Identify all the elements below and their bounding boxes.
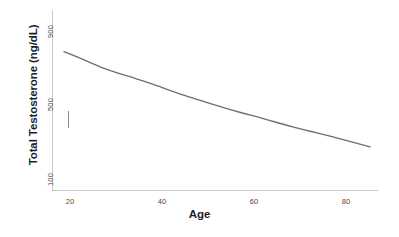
x-tick-label-60: 60 xyxy=(239,197,269,206)
y-tick-label-100: 100 xyxy=(46,173,55,186)
x-axis-title: Age xyxy=(0,208,399,220)
y-tick-label-900: 900 xyxy=(46,25,55,38)
x-tick-label-40: 40 xyxy=(147,197,177,206)
testosterone-curve xyxy=(64,52,370,147)
y-axis-title: Total Testosterone (ng/dL) xyxy=(24,0,42,190)
y-tick-label-500: 500 xyxy=(46,98,55,111)
testosterone-vs-age-chart: Total Testosterone (ng/dL) 900 500 100 2… xyxy=(0,0,399,237)
x-tick-label-20: 20 xyxy=(55,197,85,206)
x-tick-label-80: 80 xyxy=(331,197,361,206)
